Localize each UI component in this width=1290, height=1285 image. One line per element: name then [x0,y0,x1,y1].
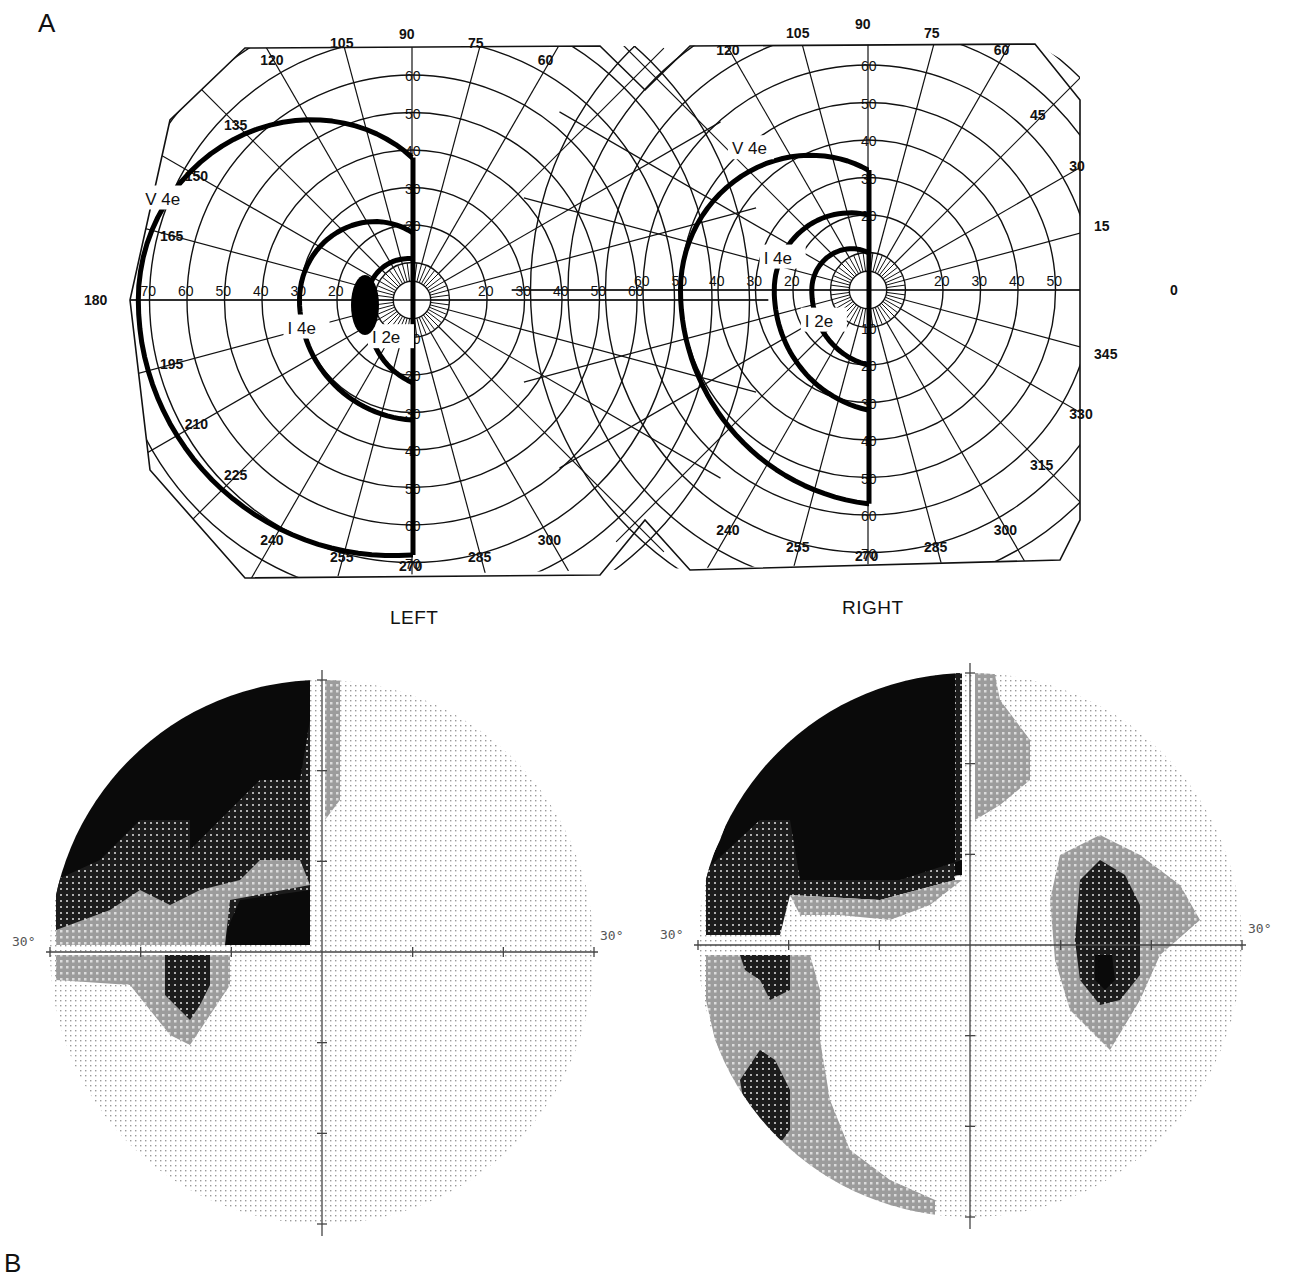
hfa-right: 30°30° [660,650,1271,1235]
eye-label-left: LEFT [390,607,438,629]
static-perimetry-charts: 30°30°30°30° [0,0,1290,1285]
defect-meridian-strip [325,660,340,820]
axis-label-30-left: 30° [12,934,35,949]
axis-label-30-right: 30° [1248,921,1271,936]
hfa-left: 30°30° [12,660,623,1236]
axis-label-30-right: 30° [600,928,623,943]
eye-label-right: RIGHT [842,597,904,619]
axis-label-30-left: 30° [660,927,683,942]
